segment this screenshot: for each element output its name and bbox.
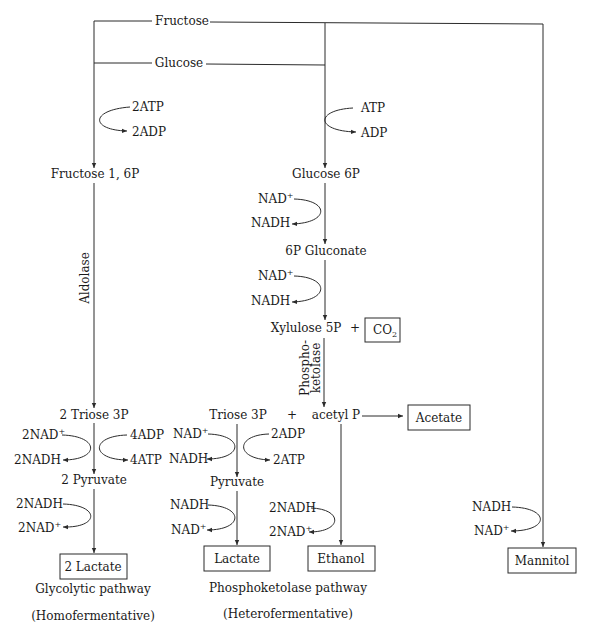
product-mannitol: Mannitol — [515, 554, 570, 568]
cofactor-nadh-out-3: NADH — [169, 452, 208, 466]
product-2-lactate: 2 Lactate — [64, 560, 121, 574]
fermentation-pathway-diagram: Fructose Glucose 2ATP 2ADP Fructose 1, 6… — [0, 0, 589, 637]
mannitol-branch: NADH NAD+ Mannitol — [472, 500, 576, 573]
plus-sign-acetyl: + — [287, 408, 297, 422]
cofactor-2nad-out: 2NAD+ — [18, 520, 61, 535]
cofactor-nadh-out-1: NADH — [251, 216, 290, 230]
glycolytic-caption: Glycolytic pathway — [35, 582, 151, 596]
fructose-label: Fructose — [155, 14, 209, 28]
cofactor-2nad-out-5: 2NAD+ — [269, 524, 312, 539]
cofactor-2adp: 2ADP — [271, 427, 305, 441]
heterofermentative-caption: (Heterofermentative) — [223, 607, 353, 621]
phosphoketolase-enzyme-label-2: ketolase — [309, 343, 323, 394]
cofactor-nad-out-4: NAD+ — [171, 522, 207, 537]
2-pyruvate: 2 Pyruvate — [61, 473, 127, 487]
cofactor-2atp: 2ATP — [132, 100, 164, 114]
glucose-6p: Glucose 6P — [292, 167, 360, 181]
glucose-label: Glucose — [155, 56, 203, 70]
acetyl-p: acetyl P — [312, 408, 360, 422]
cofactor-nadh-in-mannitol: NADH — [472, 500, 511, 514]
triose-3p: Triose 3P — [209, 408, 267, 422]
phosphoketolase-caption: Phosphoketolase pathway — [209, 581, 367, 595]
glycolytic-pathway: 2ATP 2ADP Fructose 1, 6P Aldolase 2 Trio… — [14, 100, 166, 623]
product-ethanol: Ethanol — [317, 552, 364, 566]
cofactor-2nadh-out: 2NADH — [14, 453, 61, 467]
cofactor-adp: ADP — [360, 126, 387, 140]
cofactor-4adp: 4ADP — [130, 428, 164, 442]
plus-sign-co2: + — [350, 321, 360, 335]
cofactor-nad-in-1: NAD+ — [258, 191, 294, 206]
2-triose-3p: 2 Triose 3P — [59, 408, 128, 422]
xylulose-5p: Xylulose 5P — [271, 321, 342, 335]
fructose-1-6p: Fructose 1, 6P — [51, 167, 140, 181]
pyruvate: Pyruvate — [210, 475, 264, 489]
phosphoketolase-pathway: ATP ADP Glucose 6P NAD+ NADH 6P Gluconat… — [169, 101, 470, 621]
cofactor-nad-in-2: NAD+ — [258, 268, 294, 283]
cofactor-2nad-in: 2NAD+ — [22, 427, 65, 442]
aldolase-enzyme-label: Aldolase — [78, 252, 92, 305]
product-acetate: Acetate — [415, 411, 462, 425]
cofactor-atp: ATP — [360, 101, 385, 115]
cofactor-4atp: 4ATP — [130, 453, 162, 467]
cofactor-2adp: 2ADP — [132, 125, 166, 139]
6p-gluconate: 6P Gluconate — [285, 244, 366, 258]
cofactor-2nadh-in: 2NADH — [16, 497, 63, 511]
cofactor-2nadh-in-5: 2NADH — [269, 501, 316, 515]
cofactor-nadh-in-4: NADH — [170, 498, 209, 512]
cofactor-nad-out-mannitol: NAD+ — [474, 523, 510, 538]
homofermentative-caption: (Homofermentative) — [31, 609, 155, 623]
product-lactate: Lactate — [214, 552, 260, 566]
cofactor-nadh-out-2: NADH — [251, 294, 290, 308]
cofactor-nad-in-3: NAD+ — [173, 426, 209, 441]
cofactor-2atp: 2ATP — [273, 453, 305, 467]
